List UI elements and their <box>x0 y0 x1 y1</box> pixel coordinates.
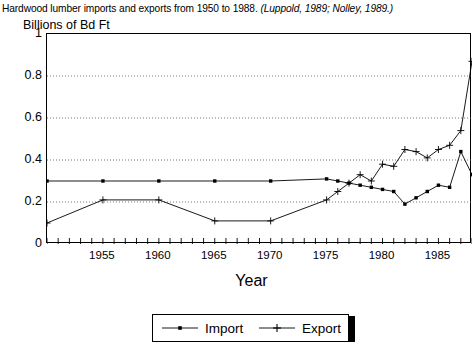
x-tick-label: 1975 <box>313 249 339 261</box>
y-tick-label: 0.4 <box>2 152 42 166</box>
figure-caption: Hardwood lumber imports and exports from… <box>2 2 472 15</box>
x-tick-label: 1980 <box>369 249 395 261</box>
plot-area <box>46 33 471 243</box>
plus-marker-icon <box>257 322 297 334</box>
dot-marker-icon <box>160 322 200 334</box>
chart-legend: ImportExport <box>152 314 349 342</box>
y-tick-label: 1 <box>2 26 42 40</box>
x-tick-label: 1970 <box>257 249 283 261</box>
x-tick-label: 1960 <box>145 249 171 261</box>
caption-text: Hardwood lumber imports and exports from… <box>2 3 260 14</box>
legend-edge-artifact <box>348 316 355 342</box>
x-axis-title: Year <box>0 272 475 290</box>
y-tick-label: 0 <box>2 236 42 250</box>
x-tick-label: 1955 <box>89 249 115 261</box>
x-tick-label: 1965 <box>201 249 227 261</box>
y-tick-label: 0.6 <box>2 110 42 124</box>
legend-item-export[interactable]: Export <box>257 321 341 336</box>
y-tick-label: 0.2 <box>2 194 42 208</box>
legend-label: Import <box>205 321 243 336</box>
legend-items: ImportExport <box>153 315 348 341</box>
legend-label: Export <box>302 321 341 336</box>
caption-citation: (Luppold, 1989; Nolley, 1989.) <box>260 3 393 14</box>
x-tick-label: 1985 <box>425 249 451 261</box>
chart-svg <box>47 34 472 244</box>
x-axis-tick-labels: 1955196019651970197519801985 <box>46 249 471 265</box>
y-axis-tick-labels: 00.20.40.60.81 <box>0 33 42 243</box>
y-tick-label: 0.8 <box>2 68 42 82</box>
legend-item-import[interactable]: Import <box>160 321 243 336</box>
x-axis-title-text: Year <box>235 272 267 289</box>
